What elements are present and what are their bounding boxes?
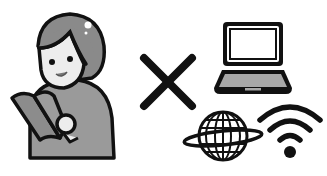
wifi-icon xyxy=(256,98,324,162)
laptop-icon xyxy=(212,20,294,96)
person-reading-icon xyxy=(8,8,123,168)
illustration: Person reading a book × laptop, internet… xyxy=(0,0,327,176)
globe-icon xyxy=(182,106,264,166)
multiply-icon xyxy=(138,52,198,112)
